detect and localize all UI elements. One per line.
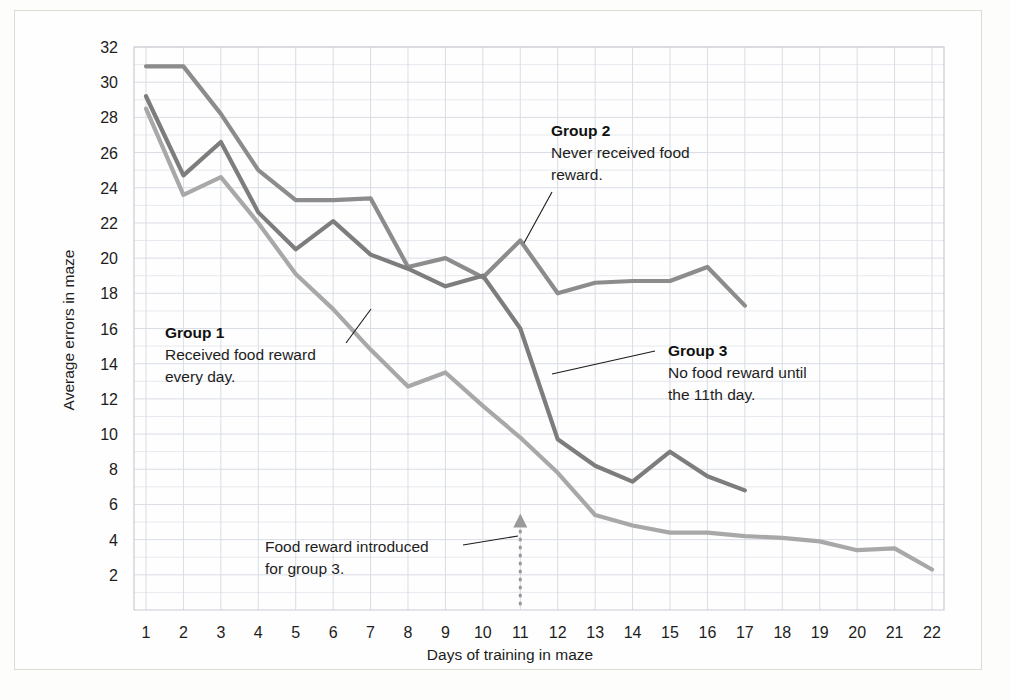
annotation-food-reward: Food reward introduced for group 3. (265, 536, 518, 577)
x-tick-label-16: 16 (699, 624, 717, 641)
x-tick-label-22: 22 (923, 624, 941, 641)
x-tick-label-1: 1 (142, 624, 151, 641)
y-axis-title: Average errors in maze (60, 250, 77, 411)
y-tick-label-2: 2 (109, 567, 118, 584)
annotation-group-2-line-1: Never received food (551, 144, 690, 161)
x-tick-label-7: 7 (366, 624, 375, 641)
x-tick-label-10: 10 (474, 624, 492, 641)
annotation-food-reward-line-2: for group 3. (265, 560, 344, 577)
y-tick-label-22: 22 (100, 215, 118, 232)
annotation-group-3-title: Group 3 (668, 342, 728, 359)
annotation-group-2-leader (524, 192, 552, 243)
x-tick-label-17: 17 (736, 624, 754, 641)
chart-annotations: Group 1 Received food reward every day. … (165, 122, 807, 577)
x-tick-label-13: 13 (586, 624, 604, 641)
annotation-group-1-line-1: Received food reward (165, 346, 316, 363)
annotation-group-3-line-1: No food reward until (668, 364, 807, 381)
y-tick-label-26: 26 (100, 145, 118, 162)
x-tick-label-6: 6 (329, 624, 338, 641)
x-tick-label-4: 4 (254, 624, 263, 641)
x-tick-label-18: 18 (773, 624, 791, 641)
x-axis-title: Days of training in maze (427, 646, 593, 663)
y-tick-label-6: 6 (109, 496, 118, 513)
series-lines (146, 66, 932, 569)
annotation-group-3-line-2: the 11th day. (668, 386, 755, 403)
x-tick-label-8: 8 (404, 624, 413, 641)
annotation-group-3: Group 3 No food reward until the 11th da… (552, 342, 807, 403)
y-tick-label-10: 10 (100, 426, 118, 443)
y-tick-label-30: 30 (100, 74, 118, 91)
y-tick-label-28: 28 (100, 109, 118, 126)
y-tick-label-16: 16 (100, 321, 118, 338)
x-tick-label-5: 5 (291, 624, 300, 641)
x-tick-label-14: 14 (624, 624, 642, 641)
y-tick-label-24: 24 (100, 180, 118, 197)
x-tick-label-20: 20 (848, 624, 866, 641)
annotation-food-reward-leader (463, 536, 518, 545)
series-line-group-1 (146, 109, 932, 570)
annotation-food-reward-line-1: Food reward introduced (265, 538, 429, 555)
y-tick-label-20: 20 (100, 250, 118, 267)
y-tick-label-4: 4 (109, 532, 118, 549)
x-tick-label-2: 2 (179, 624, 188, 641)
x-axis-tick-labels: 12345678910111213141516171819202122 (142, 624, 941, 641)
y-tick-label-14: 14 (100, 356, 118, 373)
chart-grid-major (134, 47, 944, 610)
x-tick-label-11: 11 (512, 624, 529, 641)
x-tick-label-15: 15 (661, 624, 679, 641)
x-tick-label-9: 9 (441, 624, 450, 641)
annotation-group-1: Group 1 Received food reward every day. (165, 309, 371, 385)
food-reward-arrowhead (513, 514, 527, 528)
x-tick-label-21: 21 (886, 624, 904, 641)
y-tick-label-18: 18 (100, 285, 118, 302)
annotation-group-1-title: Group 1 (165, 324, 225, 341)
annotation-group-2-line-2: reward. (551, 166, 603, 183)
figure-container: 2468101214161820222426283032 12345678910… (0, 0, 1011, 700)
annotation-group-2: Group 2 Never received food reward. (524, 122, 690, 243)
annotation-group-3-leader (552, 351, 655, 374)
y-tick-label-8: 8 (109, 461, 118, 478)
x-tick-label-19: 19 (811, 624, 829, 641)
y-axis-tick-labels: 2468101214161820222426283032 (100, 39, 118, 584)
y-tick-label-32: 32 (100, 39, 118, 56)
line-chart: 2468101214161820222426283032 12345678910… (0, 0, 1011, 700)
annotation-group-2-title: Group 2 (551, 122, 610, 139)
annotation-group-1-line-2: every day. (165, 368, 235, 385)
x-tick-label-3: 3 (216, 624, 225, 641)
x-tick-label-12: 12 (549, 624, 567, 641)
y-tick-label-12: 12 (100, 391, 118, 408)
